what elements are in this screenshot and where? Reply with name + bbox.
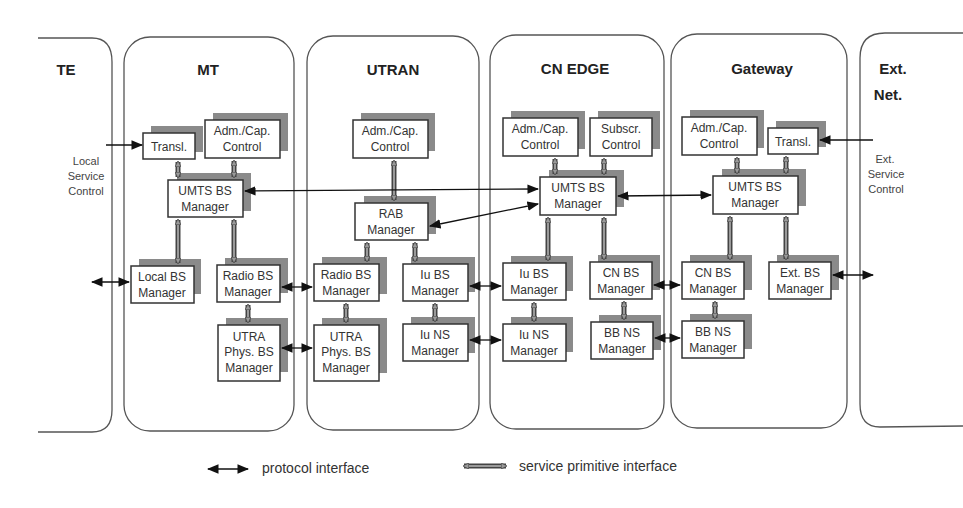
svg-text:Phys. BS: Phys. BS: [224, 345, 273, 359]
svg-text:Iu NS: Iu NS: [519, 328, 549, 342]
panel-cn-edge: [490, 35, 664, 429]
svg-text:Radio BS: Radio BS: [223, 269, 274, 283]
column-gateway: Gateway: [671, 34, 847, 428]
box-cn-umts-bs-manager: UMTS BS Manager: [540, 170, 624, 215]
svg-text:Manager: Manager: [510, 344, 557, 358]
svg-text:Iu BS: Iu BS: [519, 267, 548, 281]
svg-text:Manager: Manager: [598, 342, 645, 356]
svg-text:Subscr.: Subscr.: [601, 122, 641, 136]
box-gw-transl: Transl.: [768, 121, 826, 154]
box-cn-bb-ns-manager: BB NS Manager: [591, 315, 661, 359]
svg-text:UMTS BS: UMTS BS: [728, 180, 781, 194]
svg-text:RAB: RAB: [379, 207, 404, 221]
svg-text:Manager: Manager: [411, 344, 458, 358]
svg-text:Control: Control: [700, 137, 739, 151]
svg-text:Service: Service: [68, 170, 105, 182]
box-cn-cn-bs-manager: CN BS Manager: [590, 255, 660, 299]
svg-text:UTRA: UTRA: [330, 330, 363, 344]
svg-text:Manager: Manager: [554, 197, 601, 211]
column-ext-net: Ext. Net.: [860, 33, 963, 427]
svg-text:Control: Control: [68, 185, 103, 197]
box-gw-adm-cap-control: Adm./Cap. Control: [682, 110, 764, 155]
box-utran-utra-phys-bs-manager: UTRA Phys. BS Manager: [314, 318, 387, 381]
box-mt-umts-bs-manager: UMTS BS Manager: [168, 173, 251, 217]
umts-bs-architecture-diagram: TE MT UTRAN CN EDGE Gateway Ext. Net. Lo…: [0, 0, 963, 508]
svg-text:Adm./Cap.: Adm./Cap.: [691, 121, 748, 135]
svg-text:Manager: Manager: [181, 200, 228, 214]
column-title-utran: UTRAN: [367, 61, 420, 78]
box-gw-umts-bs-manager: UMTS BS Manager: [713, 169, 806, 214]
svg-text:Transl.: Transl.: [775, 135, 811, 149]
box-utran-iu-bs-manager: Iu BS Manager: [403, 257, 475, 301]
svg-text:Adm./Cap.: Adm./Cap.: [362, 124, 419, 138]
column-title-ext-net-2: Net.: [874, 86, 902, 103]
box-gw-ext-bs-manager: Ext. BS Manager: [769, 255, 839, 299]
svg-text:Manager: Manager: [776, 282, 823, 296]
box-mt-transl: Transl.: [143, 126, 203, 159]
svg-text:Local: Local: [73, 155, 99, 167]
svg-text:Manager: Manager: [689, 282, 736, 296]
svg-text:BB NS: BB NS: [604, 326, 640, 340]
box-mt-adm-cap-control: Adm./Cap. Control: [205, 113, 288, 158]
box-utran-adm-cap-control: Adm./Cap. Control: [353, 113, 435, 158]
svg-text:Manager: Manager: [689, 341, 736, 355]
svg-text:Ext.: Ext.: [876, 153, 895, 165]
svg-text:Manager: Manager: [367, 223, 414, 237]
svg-text:Manager: Manager: [597, 282, 644, 296]
svg-text:Iu NS: Iu NS: [420, 328, 450, 342]
box-utran-iu-ns-manager: Iu NS Manager: [403, 317, 475, 361]
box-mt-utra-phys-bs-manager: UTRA Phys. BS Manager: [218, 318, 288, 381]
svg-text:Radio BS: Radio BS: [321, 268, 372, 282]
legend-protocol-label: protocol interface: [262, 460, 370, 476]
box-cn-iu-bs-manager: Iu BS Manager: [503, 256, 573, 300]
svg-text:CN BS: CN BS: [603, 266, 640, 280]
svg-text:Manager: Manager: [225, 361, 272, 375]
svg-text:UMTS BS: UMTS BS: [551, 181, 604, 195]
local-service-control-label: Local Service Control: [68, 155, 105, 197]
column-title-gateway: Gateway: [731, 60, 793, 77]
column-title-mt: MT: [197, 61, 219, 78]
svg-text:Manager: Manager: [322, 284, 369, 298]
box-gw-bb-ns-manager: BB NS Manager: [682, 314, 752, 358]
column-cn-edge: CN EDGE: [490, 35, 664, 429]
box-cn-subscr-control: Subscr. Control: [590, 111, 660, 156]
svg-text:Manager: Manager: [731, 196, 778, 210]
legend: protocol interface service primitive int…: [208, 458, 677, 476]
svg-text:Control: Control: [868, 183, 903, 195]
svg-text:Phys. BS: Phys. BS: [321, 345, 370, 359]
column-title-ext-net-1: Ext.: [879, 60, 907, 77]
legend-protocol-interface: protocol interface: [208, 460, 370, 476]
legend-service-label: service primitive interface: [519, 458, 677, 474]
box-cn-adm-cap-control: Adm./Cap. Control: [503, 111, 585, 156]
svg-text:Transl.: Transl.: [151, 140, 187, 154]
column-title-te: TE: [56, 61, 75, 78]
svg-text:CN BS: CN BS: [695, 266, 732, 280]
column-te: TE: [38, 38, 112, 432]
panel-gateway: [671, 34, 847, 428]
column-title-cn-edge: CN EDGE: [541, 60, 609, 77]
box-utran-radio-bs-manager: Radio BS Manager: [314, 257, 387, 301]
box-mt-local-bs-manager: Local BS Manager: [131, 259, 201, 303]
svg-text:Control: Control: [371, 140, 410, 154]
legend-service-primitive-interface: service primitive interface: [464, 458, 677, 474]
svg-text:BB NS: BB NS: [695, 325, 731, 339]
svg-text:Manager: Manager: [510, 283, 557, 297]
svg-text:Manager: Manager: [411, 284, 458, 298]
svg-text:Control: Control: [521, 138, 560, 152]
box-utran-rab-manager: RAB Manager: [355, 196, 436, 240]
svg-text:Service: Service: [868, 168, 905, 180]
panel-te: [38, 38, 112, 432]
box-cn-iu-ns-manager: Iu NS Manager: [503, 317, 573, 361]
svg-text:UMTS BS: UMTS BS: [178, 184, 231, 198]
svg-text:Control: Control: [602, 138, 641, 152]
svg-text:Control: Control: [223, 140, 262, 154]
box-gw-cn-bs-manager: CN BS Manager: [682, 255, 752, 299]
svg-text:Manager: Manager: [224, 285, 271, 299]
box-mt-radio-bs-manager: Radio BS Manager: [217, 258, 288, 302]
svg-text:Manager: Manager: [138, 286, 185, 300]
svg-text:Adm./Cap.: Adm./Cap.: [214, 124, 271, 138]
svg-text:Ext. BS: Ext. BS: [780, 266, 820, 280]
svg-text:Adm./Cap.: Adm./Cap.: [512, 122, 569, 136]
svg-text:Manager: Manager: [322, 361, 369, 375]
svg-text:UTRA: UTRA: [233, 330, 266, 344]
